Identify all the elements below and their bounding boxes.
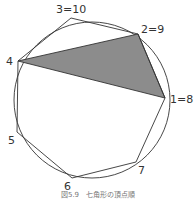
- heptagon-diagram: [0, 0, 196, 200]
- vertex-label-3: 3=10: [56, 4, 86, 15]
- vertex-label-4: 4: [6, 56, 13, 67]
- vertex-label-5: 5: [8, 135, 15, 146]
- figure-caption: 図5.9 七角形の頂点順: [0, 189, 196, 199]
- vertex-label-2: 2=9: [141, 24, 164, 35]
- vertex-label-1: 1=8: [170, 94, 193, 105]
- vertex-label-7: 7: [138, 165, 145, 176]
